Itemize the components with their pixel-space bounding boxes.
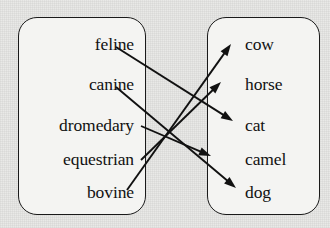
domain-item-equestrian: equestrian [63, 151, 134, 169]
codomain-item-dog: dog [245, 184, 271, 202]
domain-item-bovine: bovine [87, 184, 134, 202]
codomain-item-horse: horse [245, 76, 282, 94]
arrow-line-bovine-to-cow [127, 52, 225, 190]
codomain-item-camel: camel [245, 151, 286, 169]
arrowhead-feline-to-cat [221, 111, 233, 121]
arrowhead-dromedary-to-camel [198, 147, 211, 156]
domain-item-canine: canine [89, 76, 134, 94]
mapping-diagram: felinecaninedromedaryequestrianbovine co… [0, 0, 330, 228]
arrowhead-bovine-to-cow [221, 44, 231, 56]
domain-item-feline: feline [95, 36, 134, 54]
codomain-item-cat: cat [245, 117, 265, 135]
codomain-item-cow: cow [245, 36, 274, 54]
arrow-layer [0, 0, 330, 228]
domain-item-dromedary: dromedary [59, 117, 134, 135]
